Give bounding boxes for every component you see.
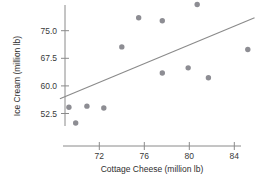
data-point	[160, 18, 165, 23]
y-tick-label: 52.5	[40, 109, 57, 119]
data-point	[84, 103, 89, 108]
data-point	[245, 47, 250, 52]
regression-line-group	[60, 18, 255, 99]
data-point	[66, 105, 71, 110]
y-tick-label: 60.0	[40, 81, 57, 91]
x-tick-label: 76	[140, 151, 150, 161]
y-axis-title: Ice Cream (million lb)	[12, 36, 22, 116]
regression-line	[60, 18, 255, 99]
data-point	[185, 65, 190, 70]
x-tick-label: 80	[185, 151, 195, 161]
y-tick-label: 67.5	[40, 53, 57, 63]
data-point	[206, 75, 211, 80]
data-point	[73, 120, 78, 125]
chart-canvas: 52.560.067.575.0 72768084 Ice Cream (mil…	[0, 0, 276, 185]
y-tick-label: 75.0	[40, 26, 57, 36]
x-axis-title: Cottage Cheese (million lb)	[101, 164, 204, 174]
scatter-plot-figure: 52.560.067.575.0 72768084 Ice Cream (mil…	[0, 0, 276, 185]
data-point	[136, 15, 141, 20]
data-point	[101, 105, 106, 110]
data-point	[119, 44, 124, 49]
x-tick-label: 84	[230, 151, 240, 161]
x-axis-ticks: 72768084	[95, 142, 240, 161]
axes-group: 52.560.067.575.0 72768084	[40, 5, 241, 161]
data-point	[160, 70, 165, 75]
x-tick-label: 72	[95, 151, 105, 161]
data-point	[194, 2, 199, 7]
data-points-group	[66, 2, 250, 126]
